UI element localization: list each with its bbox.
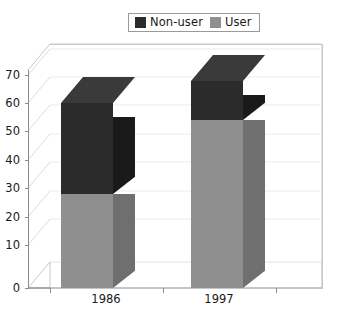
y-tick-label-50: 50 [0,126,20,136]
bar-1997-side-non-user [243,95,265,120]
y-tick-label-40: 40 [0,155,20,165]
y-tick-mark-40 [25,160,29,161]
x-tick-mark-right [276,288,277,293]
y-tick-mark-50 [25,131,29,132]
bar-1997-segment-non-user [191,81,243,120]
y-tick-mark-70 [25,75,29,76]
y-tick-label-0: 0 [0,283,20,293]
x-tick-mark-left [50,288,51,293]
y-tick-label-20: 20 [0,212,20,222]
y-tick-label-70: 70 [0,70,20,80]
bar-1986-side-non-user [113,117,135,194]
y-tick-mark-10 [25,245,29,246]
x-tick-mark-middle [163,288,164,293]
y-tick-mark-20 [25,217,29,218]
bar-1986-segment-user [61,194,113,288]
bar-1986-segment-non-user [61,103,113,194]
y-tick-mark-0 [25,288,29,289]
bar-1986-side-user [113,194,135,288]
y-tick-mark-30 [25,188,29,189]
plot-area: 70 60 50 40 30 20 10 0 [0,0,342,329]
x-tick-label-1997: 1997 [189,293,249,305]
bar-1997-side-user [243,120,265,288]
x-tick-label-1986: 1986 [76,293,136,305]
y-tick-label-10: 10 [0,240,20,250]
bar-1997-segment-user [191,120,243,288]
y-tick-mark-60 [25,103,29,104]
y-tick-label-60: 60 [0,98,20,108]
y-tick-label-30: 30 [0,183,20,193]
stacked-bar-chart: Non-user User [0,0,342,329]
